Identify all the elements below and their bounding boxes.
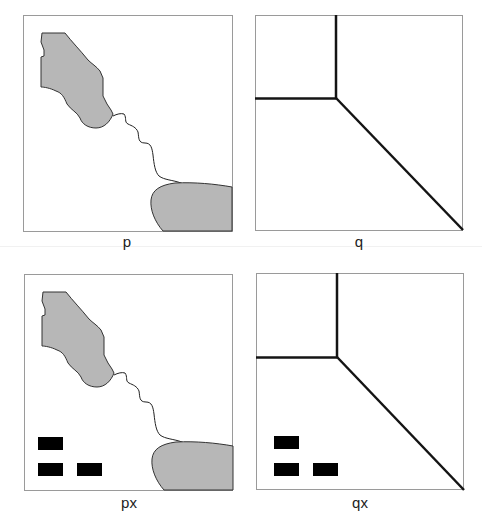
panel-p-label: p	[97, 234, 157, 250]
block-3	[77, 463, 102, 476]
block-2	[38, 463, 63, 476]
block-3	[313, 463, 338, 476]
panel-q	[255, 15, 463, 231]
panel-p	[24, 16, 233, 232]
upper-region-shape	[41, 33, 113, 128]
river-path	[114, 373, 182, 442]
diagonal-boundary	[337, 357, 464, 490]
block-1	[38, 437, 63, 450]
panel-qx	[256, 273, 464, 490]
river-path	[113, 114, 181, 183]
block-2	[274, 463, 299, 476]
lower-region-shape	[152, 442, 233, 490]
lower-region-shape	[151, 183, 232, 231]
panel-q-label: q	[329, 234, 389, 250]
diagonal-boundary	[336, 98, 463, 230]
upper-region-shape	[42, 292, 114, 387]
block-1	[274, 436, 299, 449]
panel-px	[25, 275, 234, 491]
panel-qx-label: qx	[330, 495, 390, 511]
panel-px-label: px	[99, 495, 159, 511]
